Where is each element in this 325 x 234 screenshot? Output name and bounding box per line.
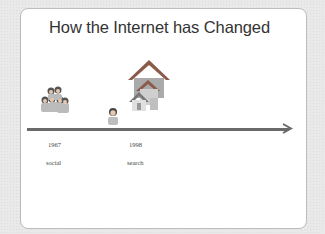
houses-icon xyxy=(126,58,172,112)
person-icon xyxy=(106,107,120,126)
event-label: social xyxy=(46,159,61,166)
timeline-axis xyxy=(27,128,289,131)
event-year: 1967 xyxy=(48,141,61,148)
event-label: search xyxy=(127,159,144,166)
slide-title: How the Internet has Changed xyxy=(49,18,270,37)
event-year: 1998 xyxy=(129,141,142,148)
people-group-icon xyxy=(38,85,72,117)
slide-card xyxy=(20,8,307,229)
arrow-head-icon xyxy=(282,123,293,134)
